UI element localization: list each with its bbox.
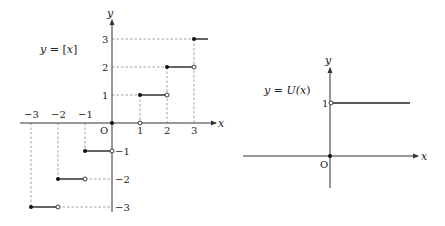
svg-text:−3: −3 <box>24 109 39 120</box>
floor-label: y = [x] <box>39 43 77 56</box>
svg-text:1: 1 <box>137 125 143 136</box>
closed-point <box>328 154 332 158</box>
svg-text:−1: −1 <box>115 146 130 157</box>
svg-text:2: 2 <box>164 125 170 136</box>
unit-step-graph: y = U(x) y x O 1 <box>243 54 428 188</box>
unit-step-label: y = U(x) <box>263 84 311 97</box>
origin-label: O <box>320 159 328 170</box>
x-axis-label: x <box>421 150 428 163</box>
svg-text:−2: −2 <box>51 109 66 120</box>
open-points <box>56 65 196 209</box>
svg-text:2: 2 <box>102 62 108 73</box>
svg-text:1: 1 <box>102 90 108 101</box>
y-tick-label: 1 <box>322 98 328 109</box>
floor-graph: y = [x] y x O −3 −2 −1 1 2 3 1 2 3 −1 −2… <box>20 7 225 213</box>
svg-text:3: 3 <box>191 125 197 136</box>
origin-label: O <box>100 125 108 136</box>
svg-text:−3: −3 <box>115 202 130 213</box>
open-point <box>329 101 333 105</box>
y-axis-label: y <box>324 54 332 67</box>
svg-text:3: 3 <box>102 34 108 45</box>
x-axis-label: x <box>218 117 225 130</box>
y-axis-label: y <box>106 7 114 20</box>
svg-text:−2: −2 <box>115 174 130 185</box>
svg-text:−1: −1 <box>78 109 93 120</box>
figure: y = [x] y x O −3 −2 −1 1 2 3 1 2 3 −1 −2… <box>0 0 445 226</box>
